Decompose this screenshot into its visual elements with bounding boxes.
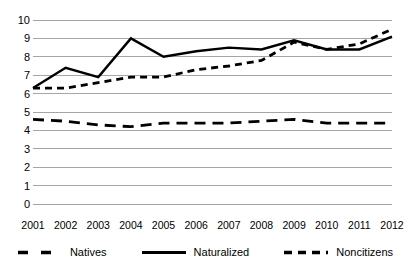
series-line-naturalized bbox=[33, 37, 392, 89]
legend-item-natives[interactable]: Natives bbox=[17, 247, 107, 258]
x-tick-label: 2005 bbox=[152, 219, 175, 232]
x-tick-label: 2012 bbox=[380, 219, 403, 232]
x-tick-label: 2003 bbox=[87, 219, 110, 232]
legend-item-naturalized[interactable]: Naturalized bbox=[141, 247, 250, 258]
y-tick-label: 0 bbox=[2, 199, 30, 210]
chart-legend: NativesNaturalizedNoncitizens bbox=[0, 241, 410, 263]
y-tick-label: 4 bbox=[2, 125, 30, 136]
legend-swatch-naturalized-icon bbox=[141, 247, 187, 258]
x-tick-label: 2007 bbox=[217, 219, 240, 232]
line-chart: 109876543210 200120022003200420052006200… bbox=[0, 0, 410, 271]
x-tick-label: 2011 bbox=[348, 219, 371, 232]
x-axis: 2001200220032004200520062007200820092010… bbox=[0, 219, 410, 233]
x-tick-label: 2004 bbox=[119, 219, 142, 232]
y-tick-label: 10 bbox=[2, 15, 30, 26]
x-tick-label: 2002 bbox=[54, 219, 77, 232]
legend-label: Noncitizens bbox=[336, 247, 393, 258]
y-tick-label: 5 bbox=[2, 107, 30, 118]
y-tick-label: 7 bbox=[2, 70, 30, 81]
y-tick-label: 6 bbox=[2, 88, 30, 99]
y-tick-label: 3 bbox=[2, 143, 30, 154]
x-tick-label: 2009 bbox=[282, 219, 305, 232]
legend-item-noncitizens[interactable]: Noncitizens bbox=[283, 247, 393, 258]
y-tick-label: 8 bbox=[2, 51, 30, 62]
x-tick-label: 2008 bbox=[250, 219, 273, 232]
legend-swatch-natives-icon bbox=[17, 247, 63, 258]
legend-label: Natives bbox=[70, 247, 107, 258]
series-line-natives bbox=[33, 119, 392, 126]
x-tick-label: 2006 bbox=[184, 219, 207, 232]
legend-label: Naturalized bbox=[194, 247, 250, 258]
y-tick-label: 1 bbox=[2, 180, 30, 191]
y-tick-label: 2 bbox=[2, 162, 30, 173]
y-tick-label: 9 bbox=[2, 33, 30, 44]
x-tick-label: 2001 bbox=[21, 219, 44, 232]
x-tick-label: 2010 bbox=[315, 219, 338, 232]
legend-swatch-noncitizens-icon bbox=[283, 247, 329, 258]
